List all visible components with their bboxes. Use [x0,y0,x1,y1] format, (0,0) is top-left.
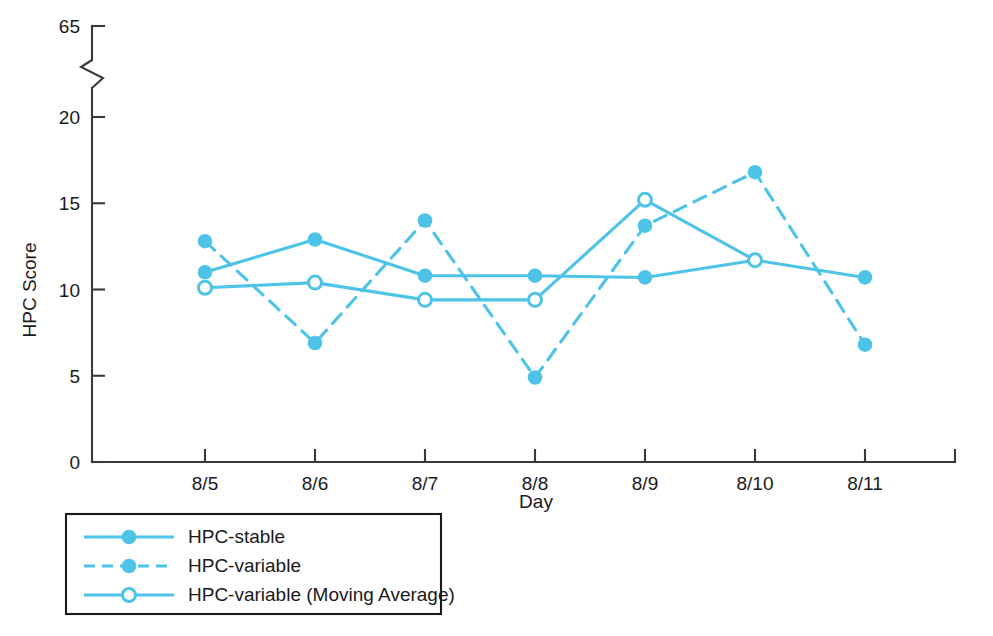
data-point [419,270,431,282]
data-point [639,271,651,283]
x-tick-label-group: 8/58/68/78/88/98/108/11 [192,473,883,494]
x-tick-group [205,449,865,462]
series-line-2 [205,200,755,300]
data-point [749,166,761,178]
y-tick-label-20: 20 [59,107,80,128]
legend-label-0: HPC-stable [188,526,285,547]
data-point [419,214,431,226]
x-tick-label-8-11: 8/11 [847,473,883,494]
legend-label-2: HPC-variable (Moving Average) [188,584,455,605]
legend-swatch-marker-1 [123,560,135,572]
chart-container: HPC Score Day 0510152065 8/58/68/78/88/9… [0,0,993,636]
data-point [199,281,212,294]
x-tick-label-8-10: 8/10 [737,473,774,494]
y-axis-break-icon [81,60,103,88]
data-point [529,270,541,282]
y-tick-label-0: 0 [69,452,80,473]
legend-label-1: HPC-variable [188,555,301,576]
data-point [639,219,651,231]
data-point [859,339,871,351]
data-point [859,271,871,283]
data-point [529,371,541,383]
series-0 [199,233,871,283]
y-tick-label-15: 15 [59,193,80,214]
y-axis-title: HPC Score [19,242,40,337]
data-point [309,337,321,349]
x-tick-label-8-9: 8/9 [632,473,658,494]
y-tick-label-10: 10 [59,280,80,301]
axes-group [81,26,955,462]
legend-swatch-marker-2 [123,589,136,602]
y-tick-label-5: 5 [69,366,80,387]
x-tick-label-8-8: 8/8 [522,473,548,494]
y-tick-label-65: 65 [59,16,80,37]
data-point [529,293,542,306]
y-tick-label-group: 0510152065 [59,16,80,473]
data-point [639,193,652,206]
line-chart-figure: HPC Score Day 0510152065 8/58/68/78/88/9… [0,0,993,636]
data-point [419,293,432,306]
y-tick-group [92,26,105,462]
data-point [199,266,211,278]
series-layer [199,166,872,384]
legend-swatch-marker-0 [123,531,135,543]
data-point [309,276,322,289]
data-point [749,254,762,267]
x-tick-label-8-5: 8/5 [192,473,218,494]
data-point [309,233,321,245]
data-point [199,235,211,247]
x-tick-label-8-6: 8/6 [302,473,328,494]
x-tick-label-8-7: 8/7 [412,473,438,494]
x-axis-title: Day [519,491,553,512]
